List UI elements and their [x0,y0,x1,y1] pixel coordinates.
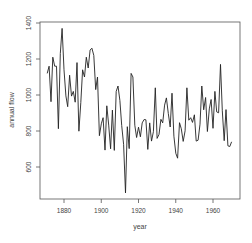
data-line [47,28,231,193]
x-axis: 18801900192019401960 [57,199,221,214]
plot-box [40,22,240,199]
x-tick-label: 1900 [94,207,109,214]
y-tick-label: 600 [25,161,32,172]
y-axis-label: annual flow [8,91,15,127]
nile-flow-line-chart: 600800100012001400 18801900192019401960 … [0,0,252,243]
x-tick-label: 1940 [169,207,184,214]
y-axis: 600800100012001400 [25,15,40,172]
x-axis-label: year [133,223,147,231]
x-tick-label: 1880 [57,207,72,214]
y-tick-label: 1200 [25,51,32,66]
x-tick-label: 1920 [131,207,146,214]
y-tick-label: 1400 [25,15,32,30]
y-tick-label: 800 [25,125,32,136]
y-tick-label: 1000 [25,87,32,102]
x-tick-label: 1960 [206,207,221,214]
